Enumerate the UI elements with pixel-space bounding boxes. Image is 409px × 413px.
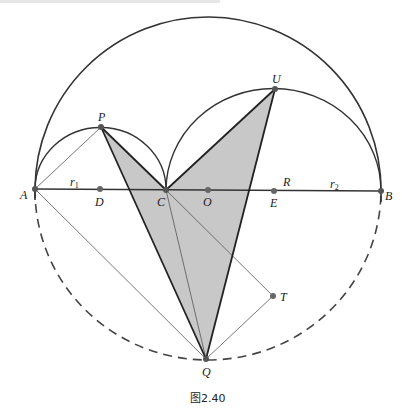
label-O: O xyxy=(203,196,212,208)
label-r1: r1 xyxy=(70,176,79,190)
label-C: C xyxy=(157,196,165,208)
label-r1-sub: 1 xyxy=(75,181,79,190)
point-E xyxy=(271,188,277,194)
point-O xyxy=(205,187,211,193)
label-E: E xyxy=(270,197,277,209)
point-P xyxy=(98,124,104,130)
label-B: B xyxy=(385,190,392,202)
point-U xyxy=(272,86,278,92)
label-R: R xyxy=(283,176,290,188)
point-B xyxy=(378,188,384,194)
label-D: D xyxy=(95,196,104,208)
label-U: U xyxy=(272,73,281,85)
point-D xyxy=(97,186,103,192)
figure-caption: 图2.40 xyxy=(190,389,226,405)
label-r2-sub: 2 xyxy=(335,183,339,192)
point-C xyxy=(163,187,169,193)
point-A xyxy=(32,186,38,192)
label-Q: Q xyxy=(202,366,211,378)
label-r2: r2 xyxy=(330,178,339,192)
label-A: A xyxy=(20,189,27,201)
point-T xyxy=(270,293,276,299)
label-P: P xyxy=(98,111,105,123)
label-T: T xyxy=(280,291,287,303)
point-Q xyxy=(203,356,209,362)
segment-AP xyxy=(35,127,101,189)
